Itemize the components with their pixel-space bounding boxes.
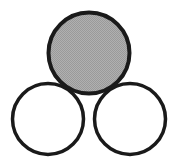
figure-canvas (0, 0, 175, 163)
bottom-right-circle (95, 84, 166, 155)
three-circles-diagram (0, 0, 175, 163)
bottom-left-circle (13, 84, 84, 155)
top-shaded-circle (49, 13, 130, 94)
